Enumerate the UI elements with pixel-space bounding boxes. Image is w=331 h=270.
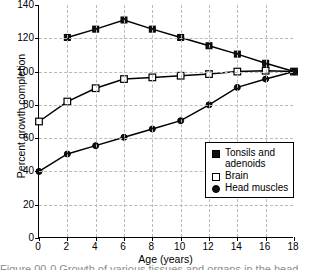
y-axis-tick (35, 5, 39, 6)
y-axis-tick-label: 80 (4, 100, 34, 110)
x-axis-tick-label: 2 (54, 242, 78, 252)
x-axis-tick-label: 6 (111, 242, 135, 252)
legend-item: Tonsils and adenoids (210, 147, 288, 169)
data-point-marker (234, 68, 241, 75)
data-point-marker (206, 43, 212, 49)
y-axis-tick-label: 100 (4, 67, 34, 77)
x-axis-tick-label: 8 (139, 242, 163, 252)
data-point-marker (206, 71, 213, 78)
y-axis-tick-label: 40 (4, 166, 34, 176)
x-axis-tick-label: 14 (224, 242, 248, 252)
y-axis-tick (35, 138, 39, 139)
x-axis-tick-label: 18 (281, 242, 305, 252)
y-axis-tick-label: 60 (4, 133, 34, 143)
legend-marker-filled-square-icon (210, 147, 222, 158)
y-axis-tick-label: 140 (4, 0, 34, 10)
data-point-marker (93, 26, 99, 32)
data-point-marker (263, 76, 269, 82)
data-point-marker (149, 74, 156, 81)
data-point-marker (64, 34, 70, 40)
legend-swatch-shape (212, 150, 220, 158)
legend-item-label: Brain (225, 170, 248, 181)
data-point-marker (177, 72, 184, 79)
data-point-marker (36, 118, 43, 125)
y-axis-tick-labels: 020406080100120140 (0, 0, 34, 270)
y-axis-tick (35, 38, 39, 39)
data-point-marker (121, 134, 127, 140)
y-axis-tick-label: 120 (4, 33, 34, 43)
legend-item: Brain (210, 170, 288, 181)
legend-swatch-shape (212, 185, 220, 193)
data-point-marker (178, 118, 184, 124)
data-point-marker (234, 84, 240, 90)
y-axis-tick (35, 205, 39, 206)
data-point-marker (93, 143, 99, 149)
data-point-marker (234, 51, 240, 57)
x-axis-tick-label: 16 (253, 242, 277, 252)
x-axis-tick-label: 10 (168, 242, 192, 252)
y-axis-tick (35, 72, 39, 73)
chart-legend: Tonsils and adenoidsBrainHead muscles (205, 142, 294, 198)
data-point-marker (149, 26, 155, 32)
data-point-marker (64, 98, 71, 105)
legend-swatch-shape (212, 173, 220, 181)
figure-caption-clipped: Figure 00-0 Growth of various tissues an… (0, 263, 331, 270)
series-line-1 (39, 71, 294, 122)
legend-marker-open-square-icon (210, 170, 222, 181)
legend-marker-filled-circle-icon (210, 182, 222, 193)
y-axis-tick-label: 20 (4, 200, 34, 210)
data-point-marker (92, 85, 99, 92)
data-point-marker (263, 60, 269, 66)
legend-item-label: Tonsils and adenoids (225, 147, 275, 169)
growth-completion-chart-figure: Percent growth completion 02040608010012… (0, 0, 331, 270)
data-point-marker (206, 102, 212, 108)
data-point-marker (262, 67, 269, 74)
legend-item: Head muscles (210, 182, 288, 193)
x-axis-tick-label: 12 (196, 242, 220, 252)
data-series-layer (39, 5, 294, 238)
data-point-marker (178, 34, 184, 40)
y-axis-tick (35, 171, 39, 172)
y-axis-tick (35, 105, 39, 106)
series-line-0 (67, 20, 294, 72)
data-point-marker (291, 69, 297, 75)
x-axis-tick-label: 4 (83, 242, 107, 252)
data-point-marker (149, 126, 155, 132)
plot-area (38, 5, 293, 238)
data-point-marker (121, 76, 128, 83)
data-point-marker (121, 17, 127, 23)
x-axis-tick-label: 0 (26, 242, 50, 252)
legend-item-label: Head muscles (225, 182, 288, 193)
data-point-marker (64, 151, 70, 157)
